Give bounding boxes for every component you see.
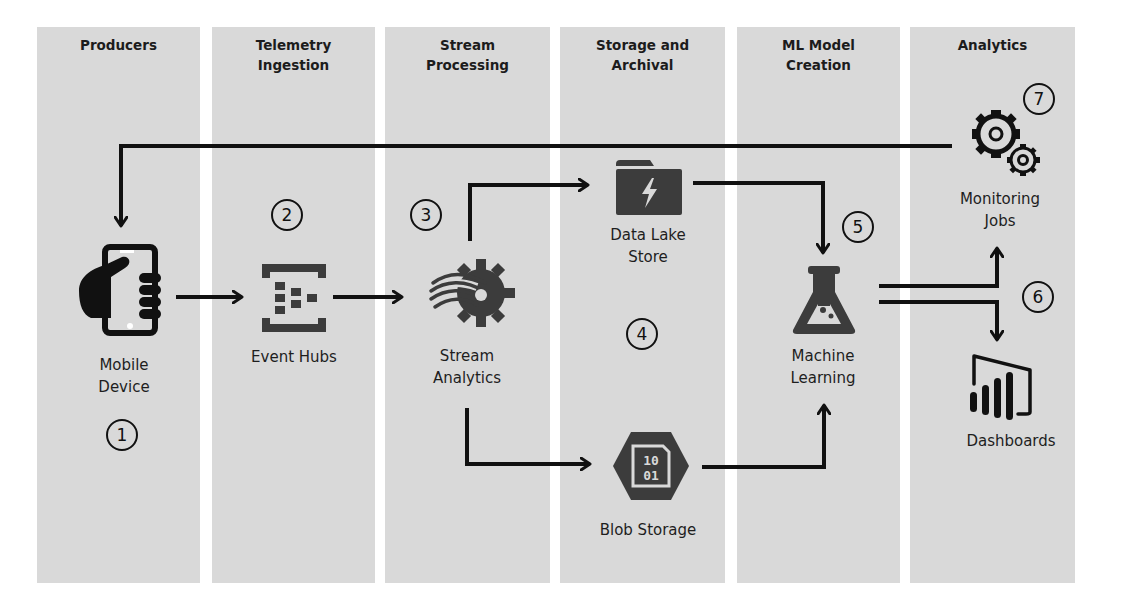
- node-label-dashboards: Dashboards: [966, 430, 1055, 452]
- node-label-event-hubs: Event Hubs: [251, 346, 337, 368]
- arrow-ml-to-dashboards: [879, 302, 997, 340]
- node-label-data-lake-store: Data Lake Store: [610, 224, 686, 268]
- step-badge-1: 1: [106, 419, 138, 451]
- event-hubs-icon: [260, 262, 328, 334]
- blob-glyph-bottom: 01: [643, 468, 659, 483]
- stream-analytics-gear-icon: [425, 253, 517, 333]
- node-label-blob-storage: Blob Storage: [600, 519, 697, 541]
- step-badge-3: 3: [410, 199, 442, 231]
- mobile-hand-icon: [77, 243, 167, 338]
- power-bi-icon: [968, 352, 1034, 424]
- data-lake-folder-icon: [614, 160, 684, 216]
- gears-icon: [968, 104, 1048, 184]
- node-label-stream-analytics: Stream Analytics: [433, 345, 501, 389]
- arrow-datalake-to-ml: [693, 183, 823, 253]
- step-badge-5: 5: [842, 211, 874, 243]
- step-badge-2: 2: [271, 199, 303, 231]
- arrow-ml-to-monitoring: [879, 248, 997, 286]
- connector-arrows: [0, 0, 1130, 613]
- step-badge-4: 4: [626, 318, 658, 350]
- step-badge-6: 6: [1022, 281, 1054, 313]
- arrow-blob-to-ml: [702, 405, 824, 467]
- arrow-stream-to-datalake: [470, 185, 588, 241]
- node-label-monitoring-jobs: Monitoring Jobs: [960, 188, 1040, 232]
- blob-storage-hexagon-icon: 10 01: [611, 430, 691, 502]
- node-label-mobile-device: Mobile Device: [98, 354, 149, 398]
- arrow-stream-to-blob: [467, 408, 590, 464]
- blob-glyph-top: 10: [643, 453, 659, 468]
- step-badge-7: 7: [1023, 83, 1055, 115]
- node-label-machine-learning: Machine Learning: [790, 345, 855, 389]
- flask-icon: [791, 264, 857, 336]
